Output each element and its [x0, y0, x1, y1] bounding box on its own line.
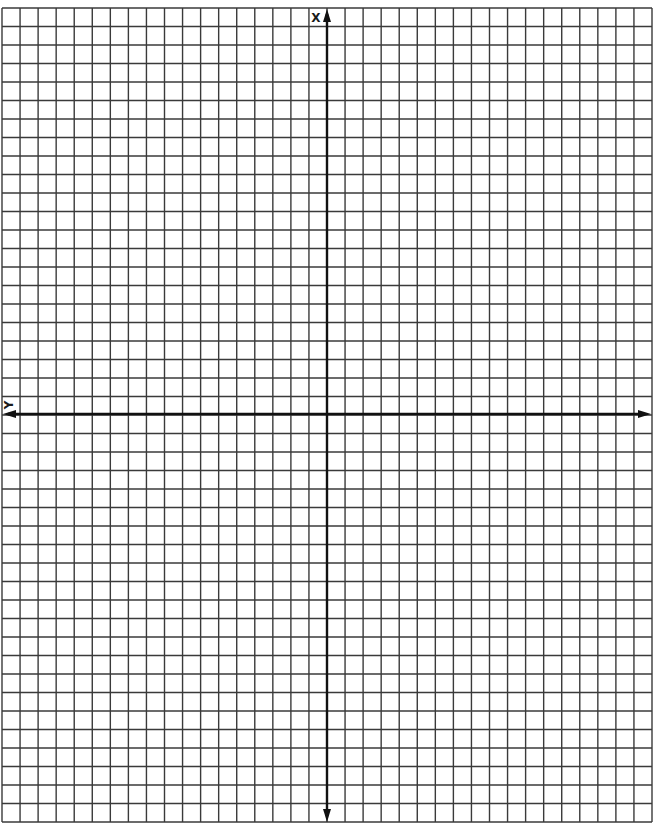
coordinate-grid: X Y	[0, 0, 656, 829]
arrow-left-icon	[3, 410, 16, 418]
arrow-up-icon	[323, 9, 331, 22]
arrow-down-icon	[323, 809, 331, 822]
vertical-axis-label: X	[311, 11, 321, 25]
horizontal-axis-label: Y	[2, 400, 16, 410]
arrow-right-icon	[638, 410, 651, 418]
